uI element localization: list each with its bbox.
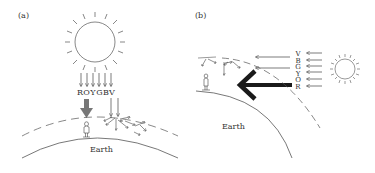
svg-text:V: V: [108, 88, 115, 97]
scattering-diagram: (a): [0, 0, 375, 173]
atmosphere-boundary-b: [222, 58, 320, 128]
observer-icon: [83, 122, 90, 137]
observer-icon: [202, 74, 210, 90]
transmitted-light-arrow: [80, 99, 93, 118]
scattered-light-arrows: [104, 117, 146, 135]
incoming-light-arrows-b: [307, 53, 322, 86]
panel-a: (a): [18, 11, 178, 158]
sun-icon: [330, 54, 360, 84]
atmosphere-top-segment: [198, 57, 216, 58]
blue-violet-arrows: [111, 98, 118, 116]
atmosphere-boundary-a: [22, 117, 178, 136]
svg-text:O: O: [83, 88, 90, 97]
panel-b-label: (b): [195, 11, 206, 20]
panel-b: (b): [195, 11, 360, 158]
spectrum-labels-b: V B G Y O R: [294, 50, 301, 91]
spectrum-labels-a: R O Y G B V: [77, 88, 115, 97]
incoming-light-arrows: [81, 73, 111, 86]
scattered-light-arrows-b: [202, 59, 240, 75]
earth-label-b: Earth: [222, 122, 245, 131]
blue-violet-arrows-b: [256, 57, 290, 68]
svg-text:G: G: [96, 88, 102, 97]
svg-text:Y: Y: [89, 88, 96, 97]
svg-text:R: R: [295, 83, 301, 91]
earth-label-a: Earth: [90, 145, 113, 154]
transmitted-red-arrow: [240, 71, 292, 99]
sun-icon: [65, 12, 125, 72]
panel-a-label: (a): [18, 11, 29, 20]
